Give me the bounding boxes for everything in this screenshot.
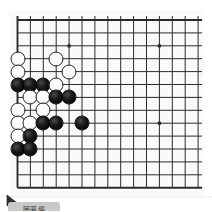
stone-white[interactable] [49,51,64,66]
stone-white[interactable] [62,64,77,79]
go-board[interactable] [9,10,203,196]
stone-black[interactable] [75,116,90,131]
board-caption-badge[interactable]: 囲碁盤 [8,202,60,211]
stone-black[interactable] [49,116,64,131]
stone-black[interactable] [62,90,77,105]
bottom-shadow [0,196,212,199]
stone-black[interactable] [23,142,38,157]
board-caption-label: 囲碁盤 [23,206,46,212]
app-root: 囲碁盤 [0,0,212,211]
